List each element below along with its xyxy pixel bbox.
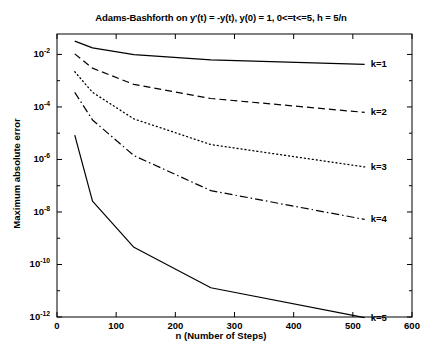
plot-area [0,0,442,358]
x-axis-label: n (Number of Steps) [0,330,442,341]
figure-canvas: Adams-Bashforth on y'(t) = -y(t), y(0) =… [0,0,442,358]
series-label-k2: k=2 [371,106,387,117]
y-tick-label: 10-12 [16,311,50,322]
series-label-k3: k=3 [371,161,387,172]
axes-frame [57,34,412,317]
series-label-k1: k=1 [371,58,387,69]
series-label-k5: k=5 [371,312,387,323]
y-tick-label: 10-2 [16,48,50,59]
series-label-k4: k=4 [371,213,387,224]
y-axis-label: Maximum absolute error [11,74,22,274]
